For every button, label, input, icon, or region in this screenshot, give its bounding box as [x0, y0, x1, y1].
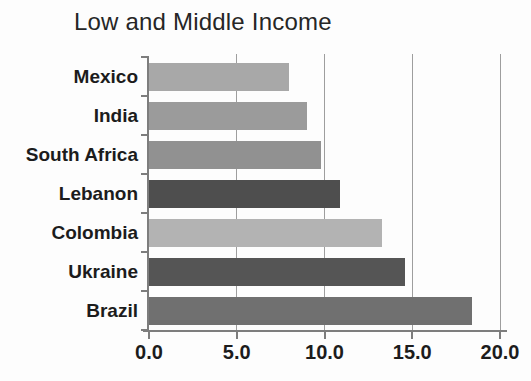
- bar-row: [149, 57, 500, 96]
- category-label-lebanon: Lebanon: [0, 174, 141, 213]
- bar-lebanon: [149, 180, 340, 208]
- y-tick-mark: [141, 56, 147, 58]
- chart-title: Low and Middle Income: [74, 8, 332, 36]
- category-label-colombia: Colombia: [0, 213, 141, 252]
- x-tick-label: 10.0: [305, 341, 344, 364]
- y-tick-mark: [141, 95, 147, 97]
- x-tick-label: 5.0: [223, 341, 251, 364]
- x-tick-mark: [148, 332, 150, 339]
- y-tick-mark: [141, 134, 147, 136]
- y-tick-mark: [141, 329, 147, 331]
- bar-row: [149, 96, 500, 135]
- bar-india: [149, 102, 307, 130]
- bar-chart-figure: Low and Middle Income MexicoIndiaSouth A…: [0, 0, 531, 381]
- category-label-india: India: [0, 96, 141, 135]
- bar-colombia: [149, 219, 382, 247]
- x-tick-label: 15.0: [393, 341, 432, 364]
- y-tick-mark: [141, 290, 147, 292]
- bar-row: [149, 174, 500, 213]
- bar-row: [149, 291, 500, 330]
- category-label-brazil: Brazil: [0, 291, 141, 330]
- bars-container: [149, 57, 500, 330]
- bar-row: [149, 213, 500, 252]
- x-tick-mark: [324, 332, 326, 339]
- bar-ukraine: [149, 258, 405, 286]
- bar-mexico: [149, 63, 289, 91]
- bar-row: [149, 252, 500, 291]
- x-tick-label: 0.0: [135, 341, 163, 364]
- category-label-south-africa: South Africa: [0, 135, 141, 174]
- y-tick-mark: [141, 212, 147, 214]
- y-axis-line: [147, 56, 149, 331]
- bar-brazil: [149, 297, 472, 325]
- x-tick-label: 20.0: [481, 341, 520, 364]
- bar-row: [149, 135, 500, 174]
- x-tick-labels: 0.05.010.015.020.0: [0, 341, 531, 367]
- bar-south-africa: [149, 141, 321, 169]
- category-label-mexico: Mexico: [0, 57, 141, 96]
- y-tick-mark: [141, 173, 147, 175]
- x-tick-mark: [236, 332, 238, 339]
- category-label-ukraine: Ukraine: [0, 252, 141, 291]
- x-tick-mark: [411, 332, 413, 339]
- plot-area: [149, 57, 500, 330]
- y-tick-mark: [141, 251, 147, 253]
- category-labels: MexicoIndiaSouth AfricaLebanonColombiaUk…: [0, 57, 141, 330]
- x-tick-mark: [499, 332, 501, 339]
